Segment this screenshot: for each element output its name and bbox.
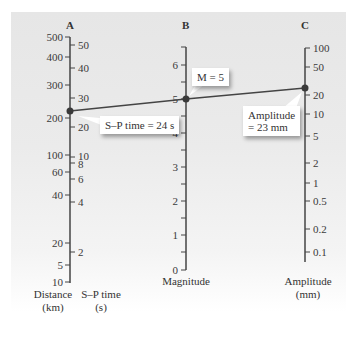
tick-label: 1 <box>313 177 319 189</box>
tick-label: 40 <box>30 189 63 201</box>
tick-label: 6 <box>78 173 84 185</box>
tick-label: 50 <box>313 61 324 73</box>
tick-label: 20 <box>313 89 324 101</box>
distance-caption-line2: (km) <box>28 301 78 314</box>
tick-label: 3 <box>160 161 178 173</box>
tick-label: 5 <box>313 130 319 142</box>
tick-label: 4 <box>78 196 84 208</box>
amplitude-caption-line1: Amplitude <box>278 275 338 288</box>
point-b <box>183 96 190 103</box>
tick-label: 2 <box>78 246 84 258</box>
sp-time-callout: S–P time = 24 s <box>100 116 179 134</box>
tick-label: 2 <box>313 157 319 169</box>
axis-b-caption: Magnitude <box>156 275 216 288</box>
amplitude-caption-line2: (mm) <box>278 288 338 301</box>
tick-label: 0.5 <box>313 195 327 207</box>
tick-label: 40 <box>78 62 89 74</box>
tick-label: 60 <box>30 166 63 178</box>
axis-a-distance-caption: Distance (km) <box>28 288 78 314</box>
tick-label: 50 <box>78 39 89 51</box>
header-b: B <box>182 19 189 31</box>
header-c: C <box>301 19 309 31</box>
tick-label: 10 <box>313 108 324 120</box>
tick-label: 6 <box>160 59 178 71</box>
amplitude-callout-line2: = 23 mm <box>248 121 295 133</box>
tick-label: 8 <box>78 158 84 170</box>
tick-label: 200 <box>30 112 63 124</box>
tick-label: 400 <box>30 51 63 63</box>
tick-label: 20 <box>78 121 89 133</box>
tick-label: 0.1 <box>313 246 327 258</box>
tick-label: 5 <box>30 259 63 271</box>
tick-label: 5 <box>160 93 178 105</box>
amplitude-callout-line1: Amplitude <box>248 109 295 121</box>
point-c <box>302 85 309 92</box>
distance-caption-line1: Distance <box>28 288 78 301</box>
tick-label: 30 <box>78 92 89 104</box>
axis-a-sp-caption: S–P time (s) <box>76 288 126 314</box>
tick-label: 0.2 <box>313 223 327 235</box>
sp-caption-line1: S–P time <box>76 288 126 301</box>
tick-label: 2 <box>160 195 178 207</box>
tick-label: 20 <box>30 237 63 249</box>
axis-c-caption: Amplitude (mm) <box>278 275 338 301</box>
tick-label: 100 <box>30 149 63 161</box>
tick-label: 10 <box>30 276 63 288</box>
tick-label: 500 <box>30 31 63 43</box>
tick-label: 300 <box>30 79 63 91</box>
tick-label: 100 <box>313 42 330 54</box>
amplitude-callout: Amplitude = 23 mm <box>243 106 300 136</box>
magnitude-callout: M = 5 <box>192 68 229 86</box>
tick-label: 1 <box>160 229 178 241</box>
sp-caption-line2: (s) <box>76 301 126 314</box>
point-a <box>67 108 74 115</box>
header-a: A <box>66 19 74 31</box>
